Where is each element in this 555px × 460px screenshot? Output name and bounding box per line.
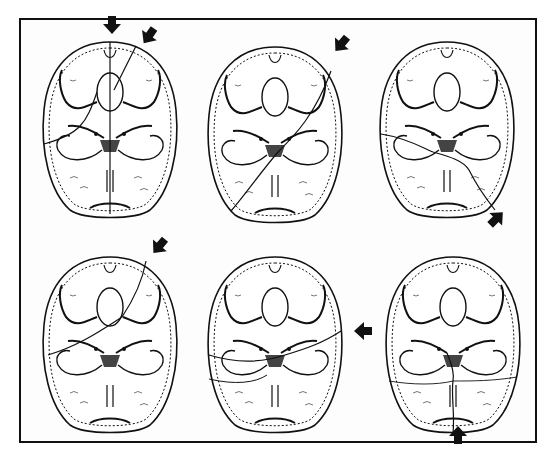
panel-2 [208,47,342,223]
panel-3 [380,42,514,218]
impact-arrow-icon [147,233,172,258]
panel-5 [208,257,342,433]
panel-6 [386,257,520,433]
panel-4 [43,257,177,433]
panel-1 [43,42,177,218]
impact-arrow-icon [354,322,372,340]
impact-arrow-icon [329,31,354,56]
impact-arrow-icon [136,23,161,48]
impact-arrow-icon [103,16,121,34]
skull-base-figure [0,0,555,460]
